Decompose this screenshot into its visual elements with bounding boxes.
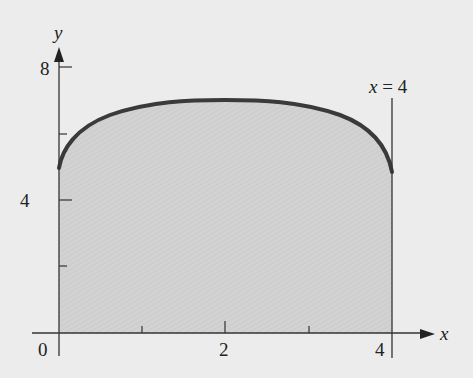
x-tick-label-0: 0 [38, 339, 48, 360]
boundary-label: x = 4 [368, 76, 408, 97]
area-chart: y x 8 4 0 2 4 x = 4 [0, 0, 473, 378]
shaded-area [59, 100, 392, 333]
x-tick-label-4: 4 [375, 339, 385, 360]
boundary-label-eq: = 4 [377, 76, 407, 97]
x-tick-label-2: 2 [219, 339, 229, 360]
x-axis-arrow-icon [420, 329, 435, 339]
y-axis-label: y [52, 22, 63, 43]
y-tick-label-4: 4 [20, 190, 30, 211]
y-axis-arrow-icon [54, 47, 64, 62]
y-tick-label-8: 8 [40, 58, 50, 79]
x-axis-label: x [439, 323, 449, 344]
